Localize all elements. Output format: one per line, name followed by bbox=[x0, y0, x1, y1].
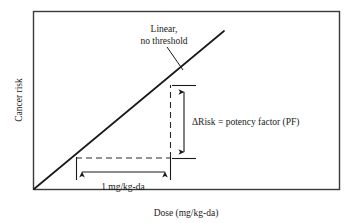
curve-label-line1: Linear, bbox=[151, 24, 178, 34]
figure-container: Linear, no threshold ΔRisk = potency fac… bbox=[0, 0, 358, 223]
dose-interval-label: 1 mg/kg-da bbox=[101, 182, 145, 192]
x-axis-label: Dose (mg/kg-da) bbox=[154, 208, 219, 219]
curve-label-line2: no threshold bbox=[140, 36, 187, 46]
dose-response-figure: Linear, no threshold ΔRisk = potency fac… bbox=[0, 0, 358, 223]
y-axis-label: Cancer risk bbox=[14, 78, 24, 122]
delta-risk-label: ΔRisk = potency factor (PF) bbox=[192, 117, 300, 128]
